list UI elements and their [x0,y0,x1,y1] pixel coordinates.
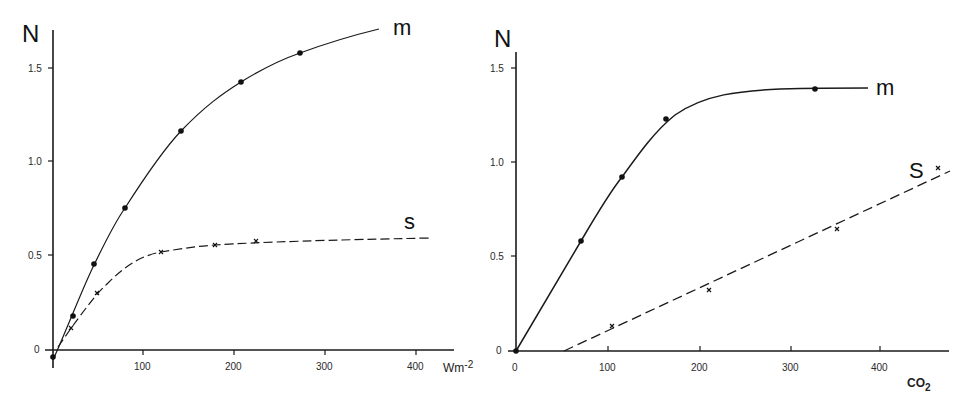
right-m-point [812,86,818,92]
right-m-point [663,116,669,122]
right-s-point [835,227,839,231]
left-m-point [50,354,56,360]
left-m-point [238,79,244,85]
right-ytick-label: 1.5 [490,63,504,74]
left-m-point [178,128,184,134]
right-xtick-label: 100 [599,362,616,373]
left-m-point [91,261,97,267]
left-m-point [70,313,76,319]
right-ytick-label: 0.5 [490,251,504,262]
left-chart [45,29,454,368]
figure: N 1.5 1.0 0.5 0 100 200 300 400 Wm-2 m s [0,0,975,403]
right-series-m-markers [513,86,818,354]
right-ytick-label: 0 [496,345,502,356]
left-series-m-label: m [393,15,411,40]
left-m-point [297,50,303,56]
right-xtick-label: 200 [691,362,708,373]
left-ytick-label: 1.0 [28,156,42,167]
right-series-m-line [516,88,868,351]
left-ytick-label: 1.5 [28,63,42,74]
right-s-point [936,166,940,170]
left-y-axis-title: N [22,20,39,47]
left-xtick-label: 200 [225,361,242,372]
left-xtick-label: 100 [134,361,151,372]
right-m-point [619,174,625,180]
left-ytick-label: 0 [34,344,40,355]
left-series-m-markers [50,50,303,360]
right-series-m-label: m [876,75,894,100]
right-xtick-label: 400 [871,362,888,373]
right-s-point [610,324,614,328]
right-ytick-label: 1.0 [490,157,504,168]
left-xtick-label: 300 [316,361,333,372]
left-x-axis-unit: Wm-2 [443,359,474,375]
left-ytick-label: 0.5 [28,250,42,261]
right-s-point [707,288,711,292]
left-series-s-line [58,238,430,347]
right-series-s-label: S [909,158,924,183]
left-series-s-markers [69,239,258,330]
left-m-point [122,205,128,211]
right-series-s-markers [610,166,940,328]
right-xtick-label: 0 [512,362,518,373]
right-series-s-line [564,171,950,351]
left-xtick-label: 400 [407,361,424,372]
left-s-point [69,326,73,330]
left-series-m-line [53,29,379,360]
right-m-point [578,238,584,244]
right-y-axis-title: N [494,25,511,52]
right-m-point [513,348,519,354]
right-x-axis-unit: CO2 [907,376,931,393]
left-series-s-label: s [404,209,415,234]
right-xtick-label: 300 [782,362,799,373]
